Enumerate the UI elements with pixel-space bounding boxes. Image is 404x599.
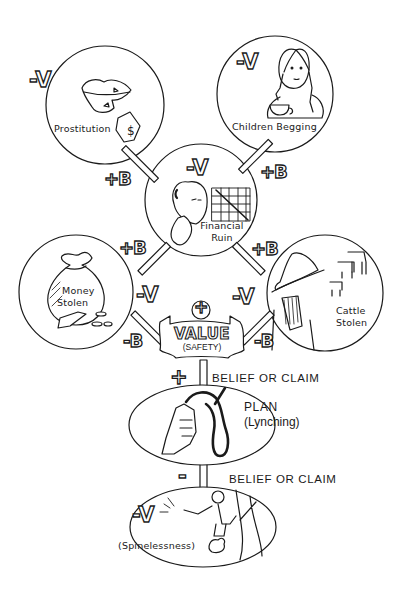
children-begging-valence: -V (236, 52, 257, 73)
money-stolen-label-line2: Stolen (57, 298, 95, 308)
financial-ruin-valence: -V (186, 158, 207, 179)
plan-label-line2: (Lynching) (244, 416, 300, 428)
cattle-stolen-label: Cattle Stolen (336, 306, 367, 327)
prostitution-to-ruin-belief: +B (104, 170, 131, 188)
children-begging-label: Children Begging (232, 122, 317, 132)
prostitution-valence: -V (29, 70, 50, 91)
cattle-to-ruin-belief: +B (251, 240, 278, 258)
plan-label: PLAN (Lynching) (244, 401, 300, 428)
value-to-plan-claim: BELIEF OR CLAIM (212, 373, 319, 385)
plan-to-spinelessness-claim: BELIEF OR CLAIM (229, 474, 336, 486)
money-to-value-belief: -B (123, 332, 142, 350)
money-to-ruin-belief: +B (119, 239, 146, 257)
svg-text:$: $ (127, 124, 135, 138)
value-label-line1: VALUE (166, 327, 238, 342)
children-begging-node (217, 36, 333, 152)
prostitution-label: Prostitution (54, 124, 111, 134)
cattle-stolen-label-line2: Stolen (336, 318, 367, 328)
money-stolen-label-line1: Money (57, 286, 95, 296)
begging-to-ruin-belief: +B (260, 163, 287, 181)
value-sign: + (194, 299, 207, 316)
money-stolen-label: Money Stolen (57, 286, 95, 307)
value-to-plan-sign: + (170, 367, 187, 388)
plan-label-line1: PLAN (244, 401, 300, 413)
financial-ruin-label: Financial Ruin (200, 221, 244, 242)
spinelessness-node (130, 487, 276, 567)
value-label: VALUE (SAFETY) (166, 327, 238, 352)
value-label-line2: (SAFETY) (166, 343, 238, 352)
money-stolen-valence: -V (136, 285, 157, 306)
financial-ruin-label-line2: Ruin (200, 233, 244, 243)
cattle-stolen-label-line1: Cattle (336, 306, 367, 316)
plan-to-spinelessness-sign: - (178, 466, 186, 487)
spinelessness-valence: -V (132, 505, 153, 526)
cattle-to-value-belief: -B (254, 332, 273, 350)
cattle-stolen-valence: -V (232, 287, 253, 308)
spinelessness-label: (Spinelessness) (118, 541, 195, 551)
cattle-stolen-node (267, 235, 383, 351)
financial-ruin-label-line1: Financial (200, 221, 244, 231)
